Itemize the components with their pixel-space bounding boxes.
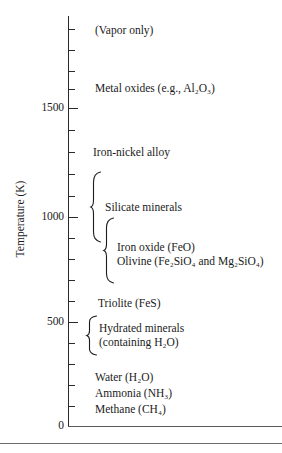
footer-divider-rule xyxy=(0,443,282,444)
y-axis-tick-1900 xyxy=(68,29,75,30)
y-axis-label-1500: 1500 xyxy=(0,102,64,114)
condensation-temperature-figure: 1500 1000 500 0 Temperature (K) (Vapor o… xyxy=(0,0,282,453)
y-axis-tick-200 xyxy=(68,385,75,386)
y-axis-tick-300 xyxy=(68,364,75,365)
y-axis-tick-400 xyxy=(68,343,75,344)
brace-hydrated-minerals xyxy=(86,315,102,356)
y-axis-label-1000-wrap: 1000 xyxy=(0,211,64,223)
label-water: Water (H₂O) xyxy=(95,370,153,384)
label-hydrated-minerals-detail: (containing H₂O) xyxy=(99,335,179,349)
y-axis-label-1500-wrap: 1500 xyxy=(0,102,64,114)
y-axis-tick-1600 xyxy=(68,89,75,90)
brace-iron-oxide-olivine xyxy=(103,217,119,284)
y-axis-tick-1800 xyxy=(68,50,75,51)
y-axis-label-0-wrap: 0 xyxy=(0,420,64,432)
y-axis-tick-1500 xyxy=(68,108,78,109)
y-axis-tick-1100 xyxy=(68,196,75,197)
label-iron-oxide: Iron oxide (FeO) xyxy=(117,240,195,254)
y-axis-tick-1200 xyxy=(68,174,75,175)
y-axis-label-1000: 1000 xyxy=(0,211,64,223)
label-olivine: Olivine (Fe₂SiO₄ and Mg₂SiO₄) xyxy=(117,254,264,268)
label-triolite: Triolite (FeS) xyxy=(98,296,161,310)
label-methane: Methane (CH₄) xyxy=(95,402,166,416)
y-axis-label-0: 0 xyxy=(0,420,64,432)
y-axis-tick-900 xyxy=(68,238,75,239)
y-axis-line xyxy=(68,16,69,427)
y-axis-tick-500 xyxy=(68,322,78,323)
label-hydrated-minerals: Hydrated minerals xyxy=(99,321,184,335)
y-axis-tick-800 xyxy=(68,259,75,260)
y-axis-tick-1300 xyxy=(68,152,75,153)
y-axis-tick-100 xyxy=(68,406,75,407)
y-axis-label-500-wrap: 500 xyxy=(0,316,64,328)
x-axis-line xyxy=(68,426,282,427)
y-axis-tick-600 xyxy=(68,301,75,302)
label-silicate-minerals: Silicate minerals xyxy=(105,200,182,214)
y-axis-tick-1400 xyxy=(68,130,75,131)
y-axis-title: Temperature (K) xyxy=(14,164,26,274)
y-axis-label-500: 500 xyxy=(0,316,64,328)
label-metal-oxides: Metal oxides (e.g., Al₂O₃) xyxy=(95,81,215,95)
y-axis-tick-1000 xyxy=(68,217,78,218)
label-iron-nickel-alloy: Iron-nickel alloy xyxy=(93,145,170,159)
label-ammonia: Ammonia (NH₃) xyxy=(95,386,172,400)
y-axis-tick-1700 xyxy=(68,71,75,72)
label-vapor-only: (Vapor only) xyxy=(95,23,153,37)
y-axis-tick-700 xyxy=(68,280,75,281)
